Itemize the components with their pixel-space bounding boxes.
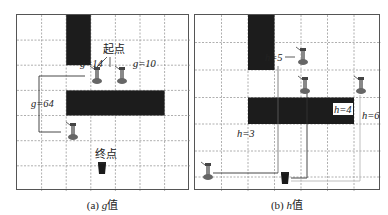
goal-bin-icon — [98, 162, 106, 174]
robot-icon-g64 — [66, 122, 78, 140]
label-start: 起点 — [103, 43, 125, 55]
label-h4: h=4 — [334, 104, 352, 115]
label-h6: h=6 — [362, 110, 380, 121]
robot-icon-h4 — [298, 76, 310, 94]
panel-g-values: 起点 g=14 g=10 g=64 终点 — [16, 14, 189, 190]
obstacle-wall-horizontal — [66, 90, 164, 115]
robot-icon-h5 — [296, 47, 308, 65]
robot-icon-h6 — [354, 76, 366, 94]
label-end: 终点 — [95, 147, 117, 160]
label-g10: g=10 — [133, 58, 157, 69]
panel-h-values: h=5 h=4 h=6 h=3 — [194, 14, 380, 190]
grid-map-h: h=5 h=4 h=6 h=3 — [195, 15, 381, 191]
caption-b: (b) h值 — [194, 196, 380, 212]
robot-icon-g10 — [115, 66, 127, 84]
label-g14: g=14 — [80, 58, 104, 69]
goal-bin-icon — [281, 172, 289, 184]
label-h3: h=3 — [237, 128, 255, 139]
caption-a: (a) g值 — [16, 196, 189, 212]
label-g64: g=64 — [31, 98, 55, 109]
label-h5: h=5 — [265, 52, 283, 63]
grid-map-g: 起点 g=14 g=10 g=64 终点 — [17, 15, 190, 191]
